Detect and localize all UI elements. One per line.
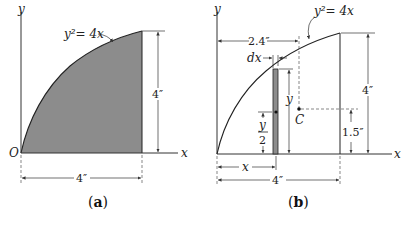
curve-label: y²= 4x xyxy=(63,27,104,41)
shaded-area xyxy=(21,31,142,153)
centroid-y-dim-label: 1.5″ xyxy=(342,126,364,139)
strip-centroid-dot xyxy=(274,110,277,113)
diagram-canvas: y x O y²= 4x 4″ 4″ (a) y x y²= 4x xyxy=(0,0,408,225)
dx-label: dx xyxy=(247,51,262,65)
strip-x-label: x xyxy=(242,160,249,174)
figure-a: y x O y²= 4x 4″ 4″ (a) xyxy=(9,2,188,210)
centroid-dot xyxy=(297,107,301,111)
half-y-numerator: y xyxy=(258,118,266,132)
width-dim-label: 4″ xyxy=(76,172,87,185)
y-axis-label: y xyxy=(17,2,25,16)
strip-height-label: y xyxy=(285,92,293,106)
x-axis-label: x xyxy=(394,147,401,161)
curve-leader xyxy=(308,17,315,39)
y-axis-label: y xyxy=(213,2,221,16)
height-dim-label: 4″ xyxy=(152,88,163,101)
centroid-x-dim-label: 2.4″ xyxy=(248,35,270,48)
caption-a: (a) xyxy=(88,194,108,210)
caption-b: (b) xyxy=(288,194,309,210)
centroid-label: C xyxy=(295,113,304,127)
x-axis-label: x xyxy=(181,146,188,160)
half-y-denominator: 2 xyxy=(259,134,266,147)
origin-label: O xyxy=(9,146,19,160)
height-dim-label: 4″ xyxy=(362,84,373,97)
parabola-curve xyxy=(217,33,340,154)
figure-b: y x y²= 4x 2.4″ dx y y 2 xyxy=(213,2,401,210)
curve-label: y²= 4x xyxy=(313,4,354,18)
width-dim-label: 4″ xyxy=(272,174,283,187)
